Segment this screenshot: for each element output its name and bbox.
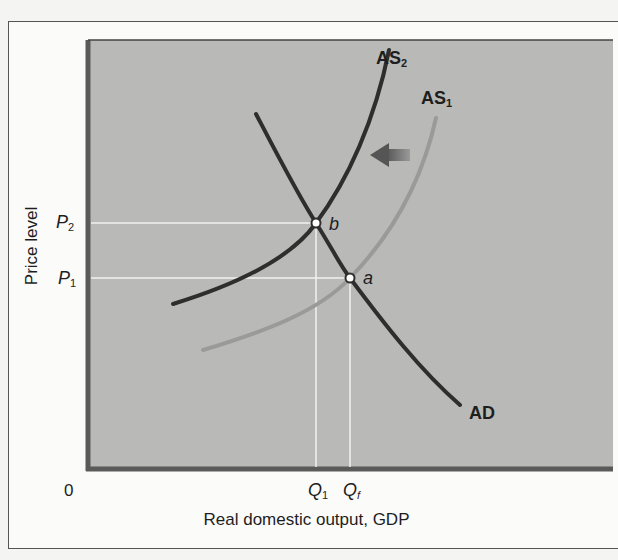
point-a-marker	[346, 274, 355, 283]
ad-label: AD	[469, 403, 495, 424]
p2-tick-label: P2	[56, 212, 74, 233]
p1-tick-label: P1	[58, 268, 76, 289]
as2-label: AS2	[376, 48, 407, 69]
x-axis-title: Real domestic output, GDP	[0, 510, 613, 530]
q1-tick-label: Q1	[308, 480, 328, 501]
as1-label: AS1	[421, 88, 452, 109]
y-axis-title: Price level	[22, 207, 42, 285]
point-b-marker	[312, 219, 321, 228]
qf-tick-label: Qf	[343, 480, 360, 501]
point-b-label: b	[329, 214, 339, 235]
origin-label: 0	[64, 481, 73, 501]
point-a-label: a	[363, 268, 373, 289]
